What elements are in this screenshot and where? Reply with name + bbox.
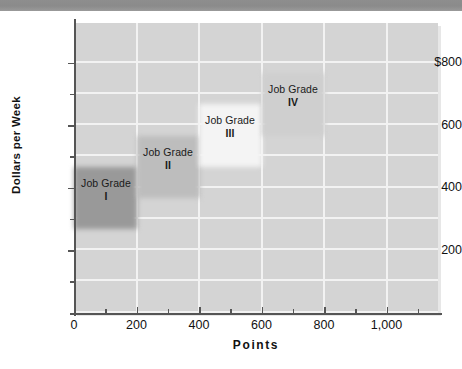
- x-tick-500: [230, 309, 232, 314]
- gridline-horizontal: [74, 92, 438, 94]
- y-axis-title: Dollars per Week: [10, 85, 22, 205]
- grade-label-iii-line1: Job Grade: [205, 114, 255, 126]
- x-axis-title: Points: [74, 338, 438, 352]
- x-tick-label-800: 800: [294, 318, 354, 332]
- page-header-band: [0, 0, 462, 11]
- x-tick-800: [324, 307, 326, 314]
- plot-area: Job Grade I Job Grade II Job Grade III J…: [74, 23, 438, 313]
- gridline-horizontal: [74, 61, 438, 63]
- grade-label-i-line2: I: [71, 190, 141, 203]
- y-tick-700: [70, 94, 75, 96]
- gridline-horizontal: [74, 248, 438, 250]
- grade-label-iii: Job Grade III: [195, 114, 265, 140]
- grade-label-iv-line2: IV: [258, 96, 328, 109]
- y-tick-600: [68, 125, 75, 127]
- x-tick-label-600: 600: [232, 318, 292, 332]
- x-tick-400: [199, 307, 201, 314]
- grade-label-i-line1: Job Grade: [81, 177, 131, 189]
- x-tick-1000: [387, 307, 389, 314]
- grade-label-iii-line2: III: [195, 127, 265, 140]
- x-tick-label-0: 0: [44, 318, 104, 332]
- y-tick-100: [70, 281, 75, 283]
- y-tick-label-800: $800: [398, 55, 462, 69]
- x-tick-0: [74, 307, 76, 314]
- grade-label-ii-line1: Job Grade: [143, 146, 193, 158]
- y-tick-800: [68, 63, 75, 65]
- y-tick-500: [70, 156, 75, 158]
- x-tick-label-200: 200: [107, 318, 167, 332]
- grade-label-iv: Job Grade IV: [258, 83, 328, 109]
- x-tick-label-400: 400: [169, 318, 229, 332]
- x-tick-600: [262, 307, 264, 314]
- gridline-horizontal: [74, 279, 438, 281]
- gridline-vertical: [323, 23, 325, 313]
- x-tick-900: [355, 309, 357, 314]
- y-tick-400: [68, 188, 75, 190]
- gridline-vertical: [386, 23, 388, 313]
- x-tick-100: [105, 309, 107, 314]
- gridline-vertical: [261, 23, 263, 313]
- grade-label-ii: Job Grade II: [133, 146, 203, 172]
- y-tick-label-200: 200: [398, 243, 462, 257]
- x-tick-label-1000: 1,000: [357, 318, 417, 332]
- x-tick-700: [293, 309, 295, 314]
- x-tick-200: [137, 307, 139, 314]
- grade-label-ii-line2: II: [133, 159, 203, 172]
- x-tick-1100: [418, 309, 420, 314]
- grade-label-i: Job Grade I: [71, 177, 141, 203]
- y-tick-300: [70, 219, 75, 221]
- x-tick-300: [168, 309, 170, 314]
- y-tick-200: [68, 250, 75, 252]
- grade-label-iv-line1: Job Grade: [268, 83, 318, 95]
- y-tick-label-600: 600: [398, 118, 462, 132]
- chart-figure: Job Grade I Job Grade II Job Grade III J…: [0, 11, 462, 369]
- y-tick-label-400: 400: [398, 180, 462, 194]
